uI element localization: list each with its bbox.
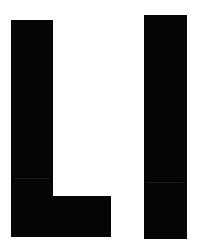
letter-i-stem	[144, 15, 187, 239]
letter-i-seam	[147, 182, 183, 183]
letter-i	[0, 0, 197, 252]
